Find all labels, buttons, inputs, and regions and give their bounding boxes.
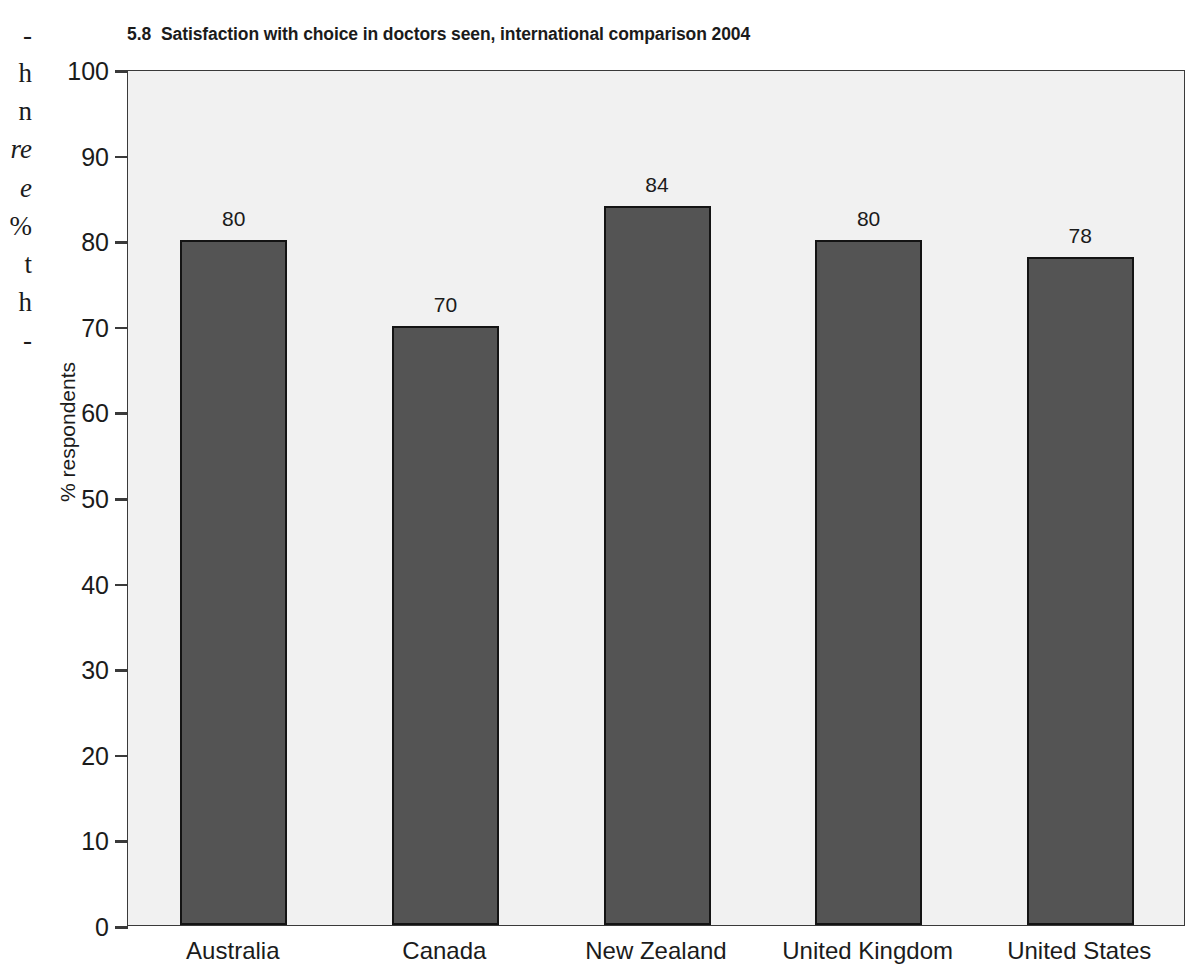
y-axis-tick-label: 80 xyxy=(81,228,109,257)
y-axis-tick-mark xyxy=(115,241,128,244)
x-axis-category-label: United Kingdom xyxy=(754,937,981,965)
bar-column[interactable]: 78 xyxy=(1027,69,1134,925)
y-axis-tick-mark xyxy=(115,412,128,415)
y-axis-tick-mark xyxy=(115,498,128,501)
x-axis-category-label: Canada xyxy=(331,937,558,965)
x-axis-category-label: New Zealand xyxy=(543,937,770,965)
bar-value-label: 80 xyxy=(180,207,287,231)
y-axis-title: % respondents xyxy=(56,342,80,522)
y-axis-tick-label: 20 xyxy=(81,742,109,771)
y-axis-tick-label: 100 xyxy=(67,57,109,86)
bar-column[interactable]: 70 xyxy=(392,69,499,925)
bar[interactable] xyxy=(815,240,922,925)
plot-area: 0102030405060708090100 8070848078 xyxy=(127,70,1185,926)
x-axis-category-label: United States xyxy=(966,937,1193,965)
y-axis-tick-mark xyxy=(115,70,128,73)
y-axis-tick-label: 30 xyxy=(81,656,109,685)
bar-column[interactable]: 80 xyxy=(180,69,287,925)
bar-value-label: 70 xyxy=(392,293,499,317)
y-axis-tick-label: 10 xyxy=(81,827,109,856)
bar[interactable] xyxy=(1027,257,1134,925)
bar-value-label: 80 xyxy=(815,207,922,231)
bar-column[interactable]: 80 xyxy=(815,69,922,925)
y-axis-tick-mark xyxy=(115,755,128,758)
y-axis-tick-mark xyxy=(115,327,128,330)
y-axis-tick-label: 90 xyxy=(81,143,109,172)
bar-column[interactable]: 84 xyxy=(604,69,711,925)
y-axis-tick-label: 0 xyxy=(95,913,109,942)
bar[interactable] xyxy=(392,326,499,925)
bar-value-label: 84 xyxy=(604,173,711,197)
y-axis-tick-label: 50 xyxy=(81,485,109,514)
x-axis-category-label: Australia xyxy=(119,937,346,965)
y-axis-tick-label: 60 xyxy=(81,399,109,428)
bar[interactable] xyxy=(604,206,711,925)
y-axis-tick-mark xyxy=(115,584,128,587)
y-axis-tick-label: 70 xyxy=(81,314,109,343)
y-axis-tick-label: 40 xyxy=(81,571,109,600)
y-axis-tick-mark xyxy=(115,669,128,672)
y-axis-tick-mark xyxy=(115,926,128,929)
y-axis-tick-mark xyxy=(115,840,128,843)
bar-value-label: 78 xyxy=(1027,224,1134,248)
bar[interactable] xyxy=(180,240,287,925)
y-axis-tick-mark xyxy=(115,156,128,159)
